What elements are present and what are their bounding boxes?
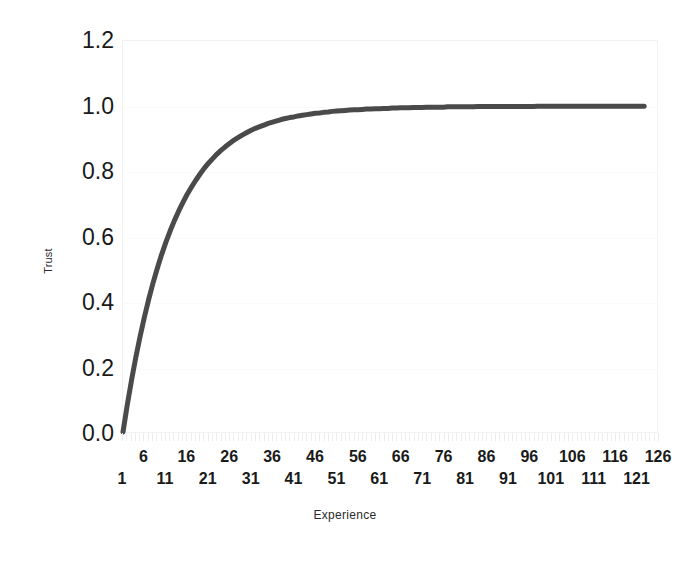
x-axis-tick-label: 111 [581, 471, 606, 487]
x-axis-tick-label: 126 [645, 449, 672, 465]
x-axis-tick-label: 6 [139, 449, 148, 465]
x-axis-tick-label: 101 [537, 471, 564, 487]
x-axis-tick-label: 46 [306, 449, 324, 465]
x-axis-tick-labels: 6162636465666768696106116126111213141516… [0, 0, 690, 565]
x-axis-title: Experience [0, 508, 690, 522]
x-axis-tick-label: 96 [520, 449, 538, 465]
x-axis-tick-label: 11 [156, 471, 173, 487]
x-axis-tick-label: 36 [263, 449, 281, 465]
x-axis-tick-label: 41 [285, 471, 303, 487]
x-axis-tick-label: 86 [478, 449, 496, 465]
x-axis-tick-label: 71 [413, 471, 431, 487]
x-axis-tick-label: 61 [370, 471, 388, 487]
x-axis-tick-label: 51 [327, 471, 345, 487]
x-axis-tick-label: 16 [177, 449, 195, 465]
x-axis-tick-label: 56 [349, 449, 367, 465]
x-axis-tick-label: 76 [435, 449, 453, 465]
x-axis-tick-label: 116 [602, 449, 628, 465]
x-axis-tick-label: 106 [559, 449, 586, 465]
chart-figure: Trust 0.00.20.40.60.81.01.2 616263646566… [0, 0, 690, 565]
x-axis-tick-label: 91 [499, 471, 517, 487]
x-axis-tick-label: 21 [199, 471, 217, 487]
x-axis-tick-label: 121 [623, 471, 650, 487]
x-axis-tick-label: 31 [242, 471, 260, 487]
x-axis-tick-label: 81 [456, 471, 474, 487]
x-axis-tick-label: 1 [118, 471, 127, 487]
x-axis-tick-label: 66 [392, 449, 410, 465]
x-axis-tick-label: 26 [220, 449, 238, 465]
